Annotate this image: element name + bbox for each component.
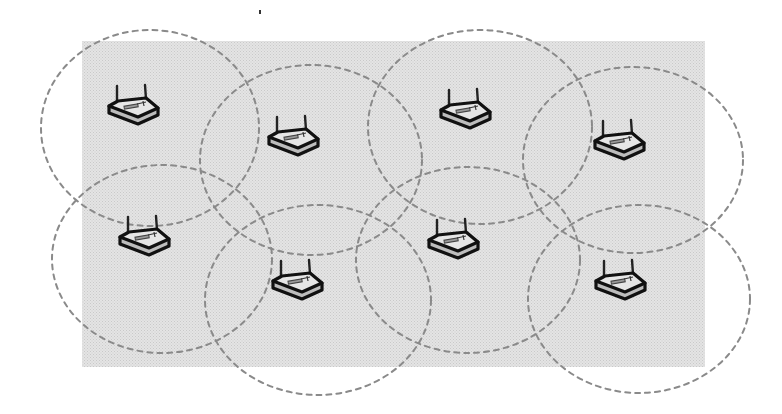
coverage-area xyxy=(82,41,705,367)
stray-mark xyxy=(259,10,261,14)
wifi-coverage-diagram xyxy=(0,0,782,414)
